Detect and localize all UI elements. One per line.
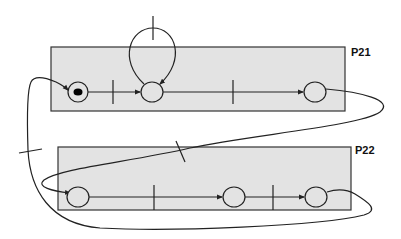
subnet-box-p21 [51,47,345,111]
subnet-label-p22: P22 [355,144,375,156]
place-p3 [304,82,326,102]
token-icon [74,89,83,96]
transition-cross-up [19,149,42,153]
place-p2 [141,82,163,102]
place-p6 [305,187,327,207]
place-p4 [67,187,89,207]
place-p5 [223,187,245,207]
subnet-label-p21: P21 [351,46,371,58]
petri-net-diagram [0,0,401,239]
